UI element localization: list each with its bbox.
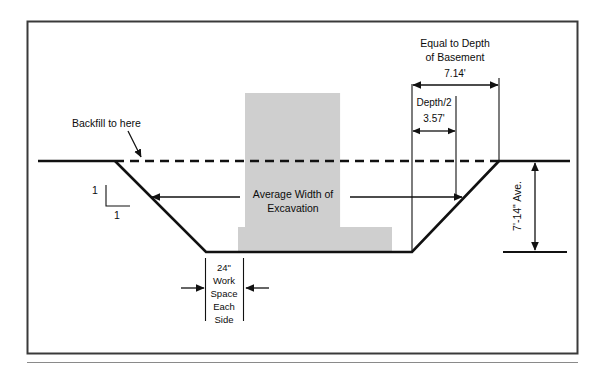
average-depth-label: 7'-14" Ave. (511, 181, 523, 231)
work-space-line-3: Each (213, 301, 235, 312)
work-space-line-4: Side (214, 314, 233, 325)
work-space-line-1: Work (213, 275, 235, 286)
work-space-line-2: Space (211, 288, 238, 299)
work-space-dimension: 24" Work Space Each Side (181, 258, 269, 325)
figure-canvas: Backfill to here 1 1 Average Width of Ex… (0, 0, 604, 366)
slope-ratio-corner (106, 185, 130, 206)
equal-depth-value: 7.14' (444, 68, 465, 79)
excavation-cross-section-diagram: Backfill to here 1 1 Average Width of Ex… (0, 0, 604, 366)
backfill-callout: Backfill to here (72, 117, 141, 157)
slope-ratio-marker: 1 1 (92, 184, 130, 221)
equal-depth-label-line1: Equal to Depth (420, 37, 490, 49)
building-footing-body (238, 227, 392, 252)
average-depth-dimension: 7'-14" Ave. (503, 163, 567, 252)
backfill-leader-arrow (128, 131, 141, 157)
work-space-line-0: 24" (217, 262, 231, 273)
half-depth-dimension: Depth/2 3.57' (413, 97, 455, 131)
equal-depth-label-line2: of Basement (426, 51, 485, 63)
average-width-label-line1: Average Width of (253, 188, 333, 200)
half-depth-value: 3.57' (423, 113, 444, 124)
slope-rise-label: 1 (92, 184, 98, 196)
average-width-label-line2: Excavation (267, 202, 319, 214)
half-depth-label: Depth/2 (416, 97, 451, 108)
slope-run-label: 1 (114, 209, 120, 221)
equal-depth-dimension: Equal to Depth of Basement 7.14' (413, 37, 498, 85)
backfill-label: Backfill to here (72, 117, 141, 129)
